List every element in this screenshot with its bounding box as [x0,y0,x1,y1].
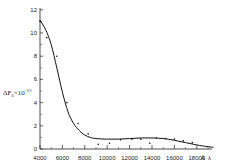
y-tick-label: 2 [34,123,38,129]
y-tick-label: 8 [34,53,38,59]
x-tick-label: 12000 [121,155,138,161]
data-point [87,133,89,135]
y-tick-label: 6 [34,76,38,82]
data-points [39,21,193,146]
data-point [56,55,58,57]
data-point [149,142,151,144]
y-axis-label: ΔFλ×10-13 [3,88,32,98]
data-point [46,37,48,39]
data-point [131,138,133,140]
y-tick-label: 0 [34,146,38,152]
x-axis-label: λ [208,155,211,161]
data-point [156,137,158,139]
y-tick-label: 12 [30,7,37,13]
data-point [165,138,167,140]
x-axis-unit: Å [201,155,205,161]
x-ticks: 4000600080001000012000140001600018000 [33,145,208,161]
data-point [77,123,79,125]
data-point [39,21,41,23]
x-tick-label: 6000 [56,155,70,161]
y-tick-label: 4 [34,100,38,106]
data-point [109,142,111,144]
fitted-curve [40,20,214,147]
x-tick-label: 14000 [144,155,161,161]
x-tick-label: 10000 [99,155,116,161]
data-point [140,138,142,140]
data-point [192,142,194,144]
chart: 024681012 400060008000100001200014000160… [0,0,239,167]
axes [40,8,212,149]
data-point [183,140,185,142]
y-tick-label: 10 [30,30,37,36]
x-tick-label: 16000 [166,155,183,161]
x-tick-label: 8000 [78,155,92,161]
data-point [120,139,122,141]
data-point [174,138,176,140]
data-point [97,144,99,146]
x-tick-label: 4000 [33,155,47,161]
y-ticks: 024681012 [30,7,43,152]
data-point [66,102,68,104]
